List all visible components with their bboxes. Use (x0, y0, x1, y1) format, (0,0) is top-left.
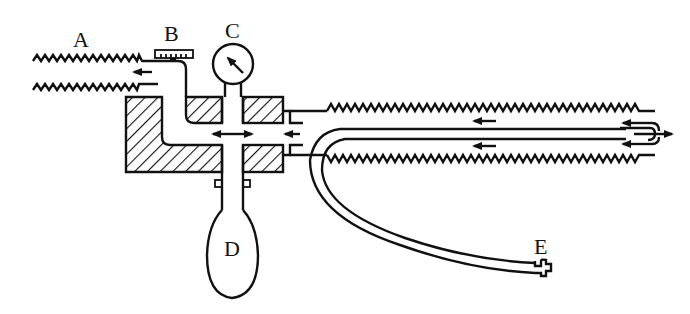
tube-end-flow-arrows (620, 123, 672, 144)
manifold-block (126, 97, 283, 172)
outlet-connector (283, 111, 327, 155)
flexible-hose-e (310, 129, 626, 276)
label-a: A (73, 27, 89, 52)
label-b: B (164, 21, 179, 46)
tube-a (33, 55, 160, 90)
label-d: D (224, 236, 240, 261)
label-c: C (225, 18, 240, 43)
corrugated-tube-right (327, 104, 655, 162)
label-e: E (534, 234, 547, 259)
diagram-canvas: A B C D E (0, 0, 690, 314)
valve-b (155, 50, 193, 61)
